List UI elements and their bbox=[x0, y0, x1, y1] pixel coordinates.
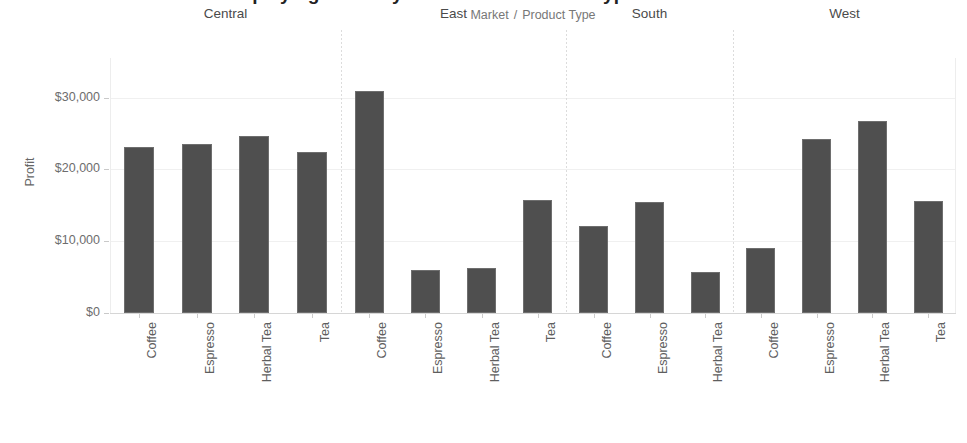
x-axis-label[interactable]: Espresso bbox=[431, 322, 445, 374]
y-tick-mark bbox=[104, 169, 109, 170]
pane-header-south[interactable]: South bbox=[566, 0, 733, 28]
y-tick-label: $0 bbox=[0, 305, 100, 319]
plot-area bbox=[110, 58, 956, 314]
x-axis-label[interactable]: Coffee bbox=[767, 322, 781, 359]
x-axis-label[interactable]: Tea bbox=[934, 322, 948, 342]
x-axis-label[interactable]: Coffee bbox=[145, 322, 159, 359]
x-axis-label[interactable]: Espresso bbox=[656, 322, 670, 374]
y-tick-label: $30,000 bbox=[0, 90, 100, 104]
pane-header-east[interactable]: East bbox=[341, 0, 566, 28]
pane-header-central[interactable]: Central bbox=[110, 0, 341, 28]
x-axis-label[interactable]: Coffee bbox=[375, 322, 389, 359]
x-axis-label[interactable]: Tea bbox=[544, 322, 558, 342]
x-axis-label[interactable]: Herbal Tea bbox=[711, 322, 725, 382]
bar-chart-dashboard: Bar Chart Dashboard Displaying Profit by… bbox=[0, 0, 967, 443]
pane-header-west[interactable]: West bbox=[733, 0, 956, 28]
y-tick-mark bbox=[104, 98, 109, 99]
x-axis-baseline bbox=[110, 313, 956, 314]
y-tick-label: $10,000 bbox=[0, 233, 100, 247]
y-tick-mark bbox=[104, 313, 109, 314]
y-axis: Profit bbox=[0, 0, 104, 443]
x-axis-label[interactable]: Espresso bbox=[203, 322, 217, 374]
x-axis-label[interactable]: Herbal Tea bbox=[488, 322, 502, 382]
x-axis-label[interactable]: Herbal Tea bbox=[878, 322, 892, 382]
x-axis-label[interactable]: Herbal Tea bbox=[260, 322, 274, 382]
x-axis-label[interactable]: Coffee bbox=[600, 322, 614, 359]
x-axis-label[interactable]: Espresso bbox=[823, 322, 837, 374]
y-tick-mark bbox=[104, 241, 109, 242]
x-axis-label[interactable]: Tea bbox=[318, 322, 332, 342]
y-tick-label: $20,000 bbox=[0, 161, 100, 175]
